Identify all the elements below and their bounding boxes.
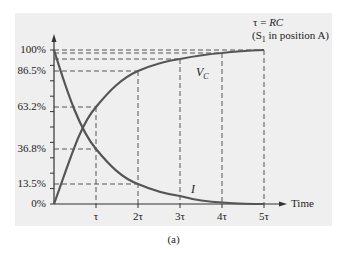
x-tick-label-4: 4τ bbox=[207, 210, 237, 222]
figure-caption: (a) bbox=[0, 233, 347, 245]
y-tick-label-100: 100% bbox=[6, 43, 46, 55]
x-axis-title: Time bbox=[291, 197, 314, 209]
x-tick-label-5: 5τ bbox=[249, 210, 279, 222]
x-tick-label-1: τ bbox=[81, 210, 111, 222]
y-tick-label-63-2: 63.2% bbox=[6, 100, 46, 112]
y-tick-label-13-5: 13.5% bbox=[6, 177, 46, 189]
x-tick-label-3: 3τ bbox=[165, 210, 195, 222]
position-suffix: in position A) bbox=[266, 29, 329, 41]
switch-position-note: (S1 in position A) bbox=[252, 29, 329, 44]
y-tick-label-36-8: 36.8% bbox=[6, 142, 46, 154]
y-tick-label-86-5: 86.5% bbox=[6, 64, 46, 76]
vc-label: VC bbox=[196, 65, 209, 81]
y-tick-label-0: 0% bbox=[6, 197, 46, 209]
tau-equation: τ = RC bbox=[253, 16, 283, 28]
x-ticks bbox=[96, 204, 264, 208]
x-axis-arrow-icon bbox=[279, 202, 287, 207]
vc-label-sub: C bbox=[203, 72, 208, 81]
tau-equation-prefix: τ = bbox=[253, 16, 269, 28]
x-tick-label-2: 2τ bbox=[123, 210, 153, 222]
i-label: I bbox=[191, 182, 195, 197]
i-curve bbox=[54, 50, 264, 204]
y-axis-arrow-icon bbox=[52, 34, 57, 42]
position-prefix: (S bbox=[252, 29, 262, 41]
reference-lines bbox=[54, 50, 264, 204]
tau-equation-rc: RC bbox=[269, 16, 283, 28]
vc-curve bbox=[54, 50, 264, 204]
